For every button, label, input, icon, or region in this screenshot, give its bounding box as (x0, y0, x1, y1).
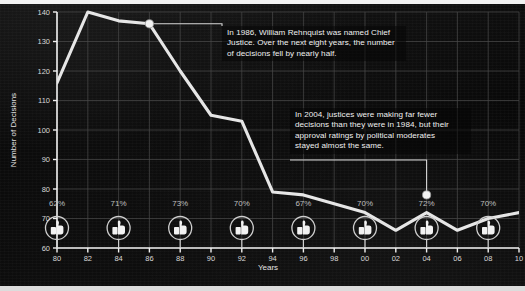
x-tick-label: 84 (114, 254, 122, 263)
thumbs-up-icon (169, 217, 192, 249)
thumbs-up-icon (415, 217, 438, 249)
x-tick-label: 80 (53, 254, 61, 263)
2004-marker (423, 191, 431, 199)
approval-rating-label: 70% (480, 199, 496, 208)
thumbs-up-icon (107, 217, 130, 249)
annotation-line: decisions than they were in 1984, but th… (295, 120, 467, 130)
approval-rating-label: 73% (172, 199, 188, 208)
annotation-line: stayed almost the same. (295, 141, 467, 151)
x-tick-label: 00 (361, 254, 369, 263)
x-tick-label: 08 (484, 254, 492, 263)
x-tick-label: 94 (268, 254, 276, 263)
thumbs-up-icon (292, 217, 315, 249)
annotation-1986: In 1986, William Rehnquist was named Chi… (222, 26, 406, 61)
approval-rating-label: 70% (234, 199, 250, 208)
x-tick-label: 86 (145, 254, 153, 263)
y-tick-label: 90 (42, 155, 50, 164)
y-tick-label: 100 (37, 126, 50, 135)
approval-rating-label: 62% (49, 199, 65, 208)
x-tick-label: 10 (515, 254, 523, 263)
leader-line-2004 (290, 160, 427, 195)
y-tick-label: 130 (37, 37, 50, 46)
annotation-line: of decisions fell by nearly half. (227, 49, 402, 59)
x-axis-title: Years (258, 263, 278, 272)
y-tick-label: 60 (42, 244, 50, 253)
y-tick-label: 80 (42, 185, 50, 194)
y-tick-label: 110 (38, 96, 50, 105)
x-tick-label: 92 (238, 254, 246, 263)
y-axis-title: Number of Decisions (9, 93, 18, 167)
x-tick-label: 02 (392, 254, 400, 263)
thumbs-up-icon (354, 217, 377, 249)
y-tick-label: 140 (37, 8, 50, 17)
thumbs-up-icon (230, 217, 253, 249)
annotation-2004: In 2004, justices were making far fewerd… (290, 108, 471, 154)
x-tick-label: 96 (299, 254, 307, 263)
x-tick-label: 90 (207, 254, 215, 263)
y-tick-label: 120 (37, 67, 50, 76)
approval-rating-label: 70% (357, 199, 373, 208)
annotation-line: Justice. Over the next eight years, the … (227, 38, 402, 48)
x-tick-label: 04 (422, 254, 430, 263)
approval-rating-label: 72% (419, 199, 435, 208)
annotation-line: In 1986, William Rehnquist was named Chi… (227, 28, 402, 38)
x-tick-label: 88 (176, 254, 184, 263)
annotation-line: In 2004, justices were making far fewer (295, 110, 467, 120)
x-tick-label: 06 (453, 254, 461, 263)
y-tick-label: 70 (42, 214, 50, 223)
approval-rating-label: 71% (111, 199, 127, 208)
x-tick-label: 98 (330, 254, 338, 263)
approval-rating-label: 67% (295, 199, 311, 208)
y-axis-ticks: 60708090100110120130140 (37, 8, 57, 253)
x-tick-label: 82 (84, 254, 92, 263)
x-axis-ticks: 80828486889092949698000204060810 (53, 248, 523, 263)
1986-marker (145, 20, 153, 28)
annotation-line: approval ratings by political moderates (295, 131, 467, 141)
chart-screenshot: 60708090100110120130140 8082848688909294… (0, 0, 525, 291)
